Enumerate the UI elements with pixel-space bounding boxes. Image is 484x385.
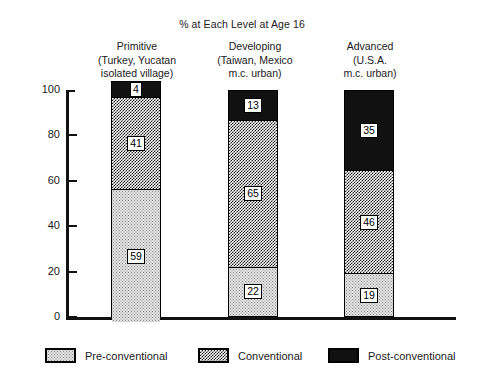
bar-developing: 13 65 22 xyxy=(228,90,278,317)
segment-value-label: 22 xyxy=(244,284,263,299)
y-axis-tick-mark xyxy=(69,271,77,273)
segment-value-label: 35 xyxy=(360,123,379,138)
y-axis-tick-label: 20 xyxy=(18,265,60,277)
plot-area: 020406080100 4 41 59 13 65 22 35 46 19 xyxy=(0,0,484,340)
legend: Pre-conventional Conventional Post-conve… xyxy=(0,348,484,372)
bar-segment-post-conventional: 35 xyxy=(345,91,393,170)
bar-segment-post-conventional: 4 xyxy=(112,82,160,97)
legend-swatch-conventional xyxy=(198,348,229,363)
segment-value-label: 46 xyxy=(360,215,379,230)
y-axis-tick-mark xyxy=(69,134,77,136)
legend-swatch-pre-conventional xyxy=(45,348,76,363)
bar-segment-pre-conventional: 59 xyxy=(112,189,160,322)
bar-advanced: 35 46 19 xyxy=(344,90,394,317)
bar-segment-conventional: 65 xyxy=(229,120,277,266)
y-axis-tick-mark xyxy=(69,316,77,318)
y-axis-tick-label: 40 xyxy=(18,219,60,231)
legend-label: Pre-conventional xyxy=(85,350,168,362)
segment-value-label: 41 xyxy=(127,136,146,151)
segment-value-label: 4 xyxy=(130,82,143,97)
y-axis-tick-mark xyxy=(69,180,77,182)
legend-item-post-conventional: Post-conventional xyxy=(328,348,455,363)
bar-segment-pre-conventional: 22 xyxy=(229,267,277,317)
bar-segment-conventional: 41 xyxy=(112,97,160,189)
bar-segment-pre-conventional: 19 xyxy=(345,273,393,316)
y-axis-tick-label: 100 xyxy=(18,83,60,95)
bar-segment-post-conventional: 13 xyxy=(229,91,277,120)
legend-swatch-post-conventional xyxy=(328,348,359,363)
legend-item-conventional: Conventional xyxy=(198,348,302,363)
bar-primitive: 4 41 59 xyxy=(111,81,161,317)
y-axis-tick-label: 60 xyxy=(18,174,60,186)
legend-item-pre-conventional: Pre-conventional xyxy=(45,348,168,363)
y-axis-tick-label: 0 xyxy=(18,310,60,322)
legend-label: Post-conventional xyxy=(368,350,455,362)
y-axis-tick-mark xyxy=(69,225,77,227)
bar-segment-conventional: 46 xyxy=(345,170,393,274)
y-axis-tick-label: 80 xyxy=(18,128,60,140)
y-axis-top-cap xyxy=(66,90,75,92)
segment-value-label: 65 xyxy=(244,186,263,201)
y-axis-line xyxy=(66,90,69,317)
segment-value-label: 59 xyxy=(127,249,146,264)
segment-value-label: 13 xyxy=(244,98,263,113)
legend-label: Conventional xyxy=(238,350,302,362)
segment-value-label: 19 xyxy=(360,288,379,303)
